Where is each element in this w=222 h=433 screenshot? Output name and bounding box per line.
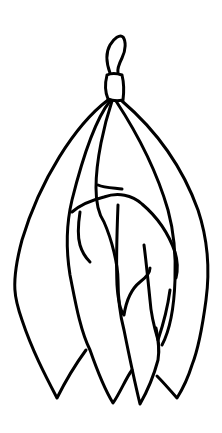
knot-loop [107,36,125,73]
fabric-fold-band-lower [98,185,122,189]
fabric-fold-band [72,195,177,278]
fabric-strip-outer-right [122,101,208,398]
knot-band [106,74,124,101]
fabric-bundle-illustration [0,0,222,433]
fabric-strip-outer-left [15,100,108,398]
fabric-inner-right [144,245,170,340]
fabric-strip-middle [96,101,159,404]
fabric-inner-left [78,212,90,262]
drawing-canvas [0,0,222,433]
